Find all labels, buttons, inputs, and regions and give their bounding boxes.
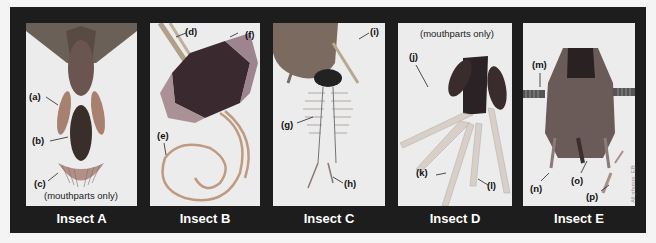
label-g: (g) xyxy=(281,119,293,130)
photo-panel-insect-b: (d) (e) (f) xyxy=(150,23,260,206)
label-b: (b) xyxy=(32,135,44,146)
caption-insect-e: Insect E xyxy=(523,209,635,229)
label-o: (o) xyxy=(571,175,583,186)
caption-insect-d: Insect D xyxy=(398,209,512,229)
label-i: (i) xyxy=(370,26,379,37)
photo-panel-insect-d: (mouthparts only) (j) (k) (l) xyxy=(398,23,512,206)
caption-insect-b: Insect B xyxy=(150,209,260,229)
label-f: (f) xyxy=(245,29,255,40)
photo-panel-insect-a: (a) (b) (c) (mouthparts only) xyxy=(26,23,137,206)
figure-frame: (a) (b) (c) (mouthparts only) Insect A (… xyxy=(10,7,646,233)
panel-a-note: (mouthparts only) xyxy=(44,190,118,201)
insect-b-mouthparts-illustration xyxy=(150,23,260,206)
label-n: (n) xyxy=(530,183,542,194)
label-j: (j) xyxy=(409,51,418,62)
caption-insect-c: Insect C xyxy=(273,209,385,229)
panel-d-note: (mouthparts only) xyxy=(420,28,494,39)
label-m: (m) xyxy=(532,59,547,70)
label-k: (k) xyxy=(416,167,428,178)
label-l: (l) xyxy=(487,180,496,191)
caption-insect-a: Insect A xyxy=(26,209,137,229)
label-e: (e) xyxy=(157,130,169,141)
label-a: (a) xyxy=(29,91,41,102)
label-h: (h) xyxy=(344,178,356,189)
label-d: (d) xyxy=(185,26,197,37)
photo-panel-insect-c: (g) (h) (i) xyxy=(273,23,385,206)
photo-credit: All photos: EB xyxy=(630,165,636,203)
label-c: (c) xyxy=(34,178,46,189)
label-p: (p) xyxy=(586,191,598,202)
photo-panel-insect-e: (m) (n) (o) (p) xyxy=(523,23,635,206)
insect-c-mouthparts-illustration xyxy=(273,23,385,206)
